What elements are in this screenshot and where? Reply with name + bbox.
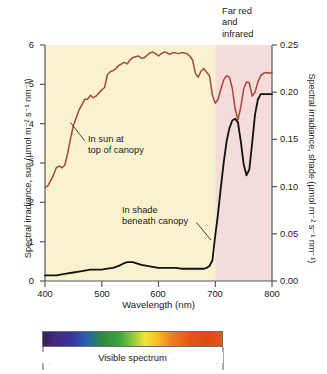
y-right-tick-020: 0.20 — [280, 86, 314, 97]
y-right-tick-010: 0.10 — [280, 181, 314, 192]
x-tick-700: 700 — [195, 288, 235, 299]
x-tick-600: 600 — [138, 288, 178, 299]
sun-annotation-line-1: In sun at — [88, 134, 144, 145]
visible-spectrum-color-bar — [42, 331, 223, 347]
visible-band-shading — [45, 45, 215, 281]
y-left-tick-1: 1 — [8, 236, 34, 247]
right-tick-marks — [272, 45, 277, 281]
shade-curve-annotation: In shade beneath canopy — [122, 205, 188, 228]
y-axis-right-title: Spectral irradiance, shade (µmol m⁻² s⁻¹… — [307, 48, 318, 288]
far-red-infrared-annotation: Far red and infrared — [222, 6, 254, 40]
spectral-irradiance-figure: Spectral irradiance, sun (µmol m⁻² s⁻¹ n… — [0, 0, 327, 374]
y-left-tick-4: 4 — [8, 118, 34, 129]
y-left-tick-6: 6 — [8, 39, 34, 50]
y-right-tick-000: 0.00 — [280, 275, 314, 286]
far-red-annotation-line-2: and — [222, 17, 254, 28]
y-right-tick-015: 0.15 — [280, 133, 314, 144]
sun-curve-annotation: In sun at top of canopy — [88, 134, 144, 157]
y-left-tick-2: 2 — [8, 196, 34, 207]
far-red-annotation-line-3: infrared — [222, 29, 254, 40]
y-right-tick-005: 0.05 — [280, 228, 314, 239]
left-tick-marks — [40, 45, 45, 281]
y-left-tick-5: 5 — [8, 78, 34, 89]
sun-annotation-line-2: top of canopy — [88, 145, 144, 156]
x-tick-800: 800 — [252, 288, 292, 299]
y-left-tick-3: 3 — [8, 157, 34, 168]
visible-spectrum-caption: Visible spectrum — [42, 352, 223, 363]
x-tick-marks — [45, 281, 272, 287]
far-red-annotation-line-1: Far red — [222, 6, 254, 17]
x-tick-400: 400 — [25, 288, 65, 299]
shade-annotation-line-2: beneath canopy — [122, 216, 188, 227]
x-axis-title: Wavelength (nm) — [45, 299, 272, 310]
x-tick-500: 500 — [82, 288, 122, 299]
chart-plot-area — [0, 0, 327, 374]
y-left-tick-0: 0 — [8, 275, 34, 286]
y-right-tick-025: 0.25 — [280, 39, 314, 50]
shade-annotation-line-1: In shade — [122, 205, 188, 216]
